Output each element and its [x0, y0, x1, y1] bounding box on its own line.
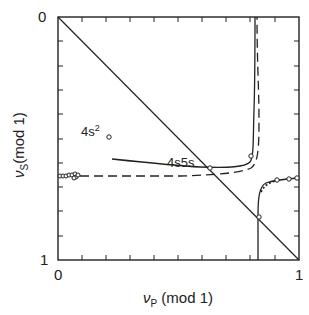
y-axis-tail: (mod 1)	[10, 112, 27, 164]
right-ticks	[294, 41, 299, 236]
annotation-4s5s: 4s5s	[167, 155, 194, 170]
theory-branch-1-dashed	[80, 17, 259, 176]
y-axis-symbol: ν	[10, 171, 27, 179]
theory-branch-1-solid	[112, 17, 255, 167]
point-4s5s	[208, 166, 212, 170]
theory-branch-2-solid	[258, 178, 298, 260]
annotation-4s2-sup: 2	[95, 123, 100, 133]
x-axis-symbol: ν	[143, 289, 151, 306]
top-ticks	[82, 17, 275, 22]
annotation-4s2: 4s2	[81, 123, 100, 139]
y-axis-subscript: S	[19, 164, 30, 171]
bottom-ticks	[82, 255, 275, 260]
y-tick-0: 0	[38, 8, 46, 25]
annotation-4s2-main: 4s	[81, 124, 95, 139]
x-axis-title: νP (mod 1)	[143, 289, 213, 309]
y-tick-1: 1	[40, 251, 48, 268]
y-axis-title: νS(mod 1)	[10, 112, 30, 178]
x-tick-0: 0	[54, 266, 62, 283]
left-ticks	[58, 41, 63, 236]
x-tick-1: 1	[295, 266, 303, 283]
point-4s2	[107, 135, 111, 139]
x-axis-tail: (mod 1)	[157, 289, 213, 306]
data-points	[58, 135, 299, 219]
